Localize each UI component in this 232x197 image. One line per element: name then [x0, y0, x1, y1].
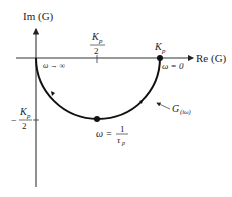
- svg-text:−: −: [11, 115, 17, 126]
- svg-text:1: 1: [120, 124, 125, 134]
- svg-text:(iω): (iω): [180, 108, 191, 116]
- direction-arrow-left: [51, 91, 55, 96]
- svg-text:2: 2: [94, 46, 99, 56]
- point-omega-mid: [94, 116, 100, 122]
- svg-text:G: G: [172, 103, 179, 114]
- svg-text:p: p: [26, 112, 31, 120]
- kp-half-label: K p 2: [90, 31, 105, 56]
- curve-label-leader: [157, 103, 170, 109]
- svg-text:τ: τ: [117, 135, 121, 145]
- kp-label: K p: [154, 41, 166, 55]
- neg-kp-half-label: − K p 2: [11, 106, 32, 131]
- x-axis-label: Re (G): [196, 52, 227, 65]
- nyquist-diagram: Im (G) Re (G) K p 2 − K p 2 K p ω = 0 ω …: [0, 0, 232, 197]
- svg-text:p: p: [121, 140, 125, 146]
- curve-label: G (iω): [172, 103, 191, 116]
- svg-text:p: p: [161, 47, 166, 55]
- svg-text:2: 2: [22, 121, 27, 131]
- omega-mid-label: ω = 1 τ p: [96, 124, 128, 146]
- omega-zero-label: ω = 0: [162, 61, 184, 71]
- y-axis-label: Im (G): [23, 10, 54, 23]
- svg-text:ω =: ω =: [96, 128, 112, 139]
- svg-text:p: p: [98, 37, 103, 45]
- omega-infinity-label: ω → ∞: [43, 61, 66, 70]
